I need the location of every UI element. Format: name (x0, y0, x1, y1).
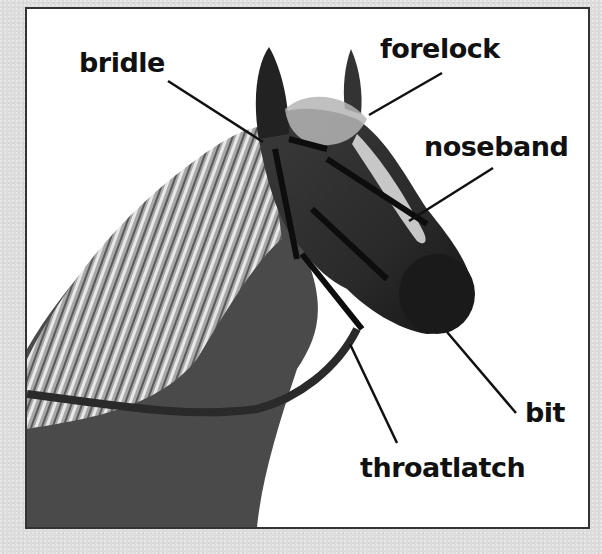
diagram-frame: bridle forelock noseband bit throatlatch (25, 7, 590, 529)
label-bit: bit (525, 399, 565, 426)
leader-noseband (409, 168, 493, 221)
label-bridle: bridle (79, 49, 165, 76)
leader-throatlatch (350, 344, 397, 443)
horse-ear-left (256, 47, 289, 139)
label-throatlatch: throatlatch (360, 454, 525, 481)
label-noseband: noseband (424, 133, 568, 160)
leader-forelock (369, 73, 442, 115)
label-forelock: forelock (380, 35, 500, 62)
horse-muzzle (399, 254, 475, 334)
leader-bridle (168, 81, 263, 142)
horse-illustration (27, 9, 588, 527)
leader-bit (447, 332, 516, 413)
